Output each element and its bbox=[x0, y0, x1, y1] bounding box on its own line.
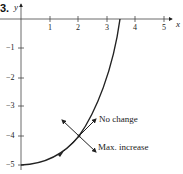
evaluation-point bbox=[78, 135, 81, 138]
no-change-vector bbox=[62, 120, 79, 136]
y-tick-label-neg2: −2 bbox=[6, 74, 15, 82]
y-axis-label: y bbox=[14, 3, 18, 12]
no-change-vector-reverse bbox=[79, 136, 96, 152]
x-tick-label-4: 4 bbox=[133, 24, 137, 32]
y-tick-label-neg4: −4 bbox=[6, 132, 15, 140]
y-tick-label-neg5: −5 bbox=[6, 161, 15, 169]
x-axis-label: x bbox=[176, 20, 180, 29]
x-tick-label-1: 1 bbox=[48, 24, 52, 32]
y-tick-label-neg1: −1 bbox=[6, 44, 15, 52]
figure-canvas bbox=[0, 0, 183, 174]
x-tick-label-5: 5 bbox=[162, 24, 166, 32]
max-increase-label: Max. increase bbox=[98, 143, 148, 152]
max-increase-vector-reverse bbox=[64, 136, 79, 151]
y-tick-label-neg3: −3 bbox=[6, 102, 15, 110]
x-tick-label-3: 3 bbox=[105, 24, 109, 32]
x-tick-label-2: 2 bbox=[76, 24, 80, 32]
no-change-label: No change bbox=[99, 115, 138, 124]
problem-number: 3. bbox=[0, 3, 9, 14]
